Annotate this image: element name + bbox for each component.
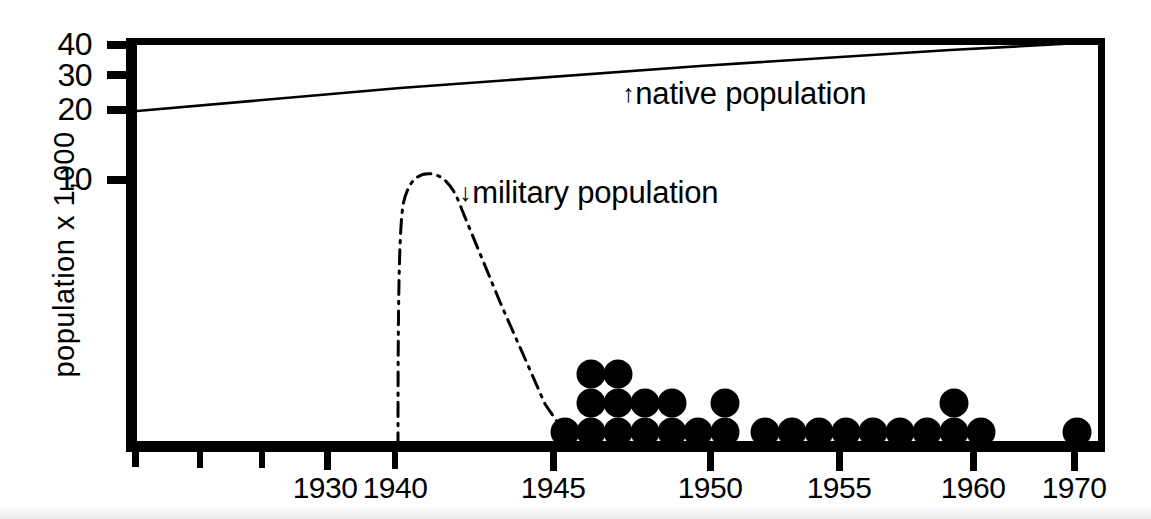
data-dot [551, 418, 580, 447]
data-dot [751, 418, 780, 447]
data-dot [805, 418, 834, 447]
x-tick-label-1955: 1955 [779, 473, 899, 503]
annotation-native-population-label: native population [635, 76, 866, 111]
data-dot [604, 389, 633, 418]
data-dot [658, 389, 687, 418]
x-tick-label-1945: 1945 [493, 473, 613, 503]
data-dot [832, 418, 861, 447]
annotation-military-population-label: military population [472, 175, 718, 210]
arrow-up-icon: ↑ [622, 81, 634, 106]
y-axis-label: population x 1,000 [48, 105, 81, 405]
data-dot [778, 418, 807, 447]
data-dot [1063, 418, 1092, 447]
data-dot [711, 418, 740, 447]
figure-canvas: population x 1,000 40 30 20 10 1930 1940… [0, 0, 1151, 519]
data-dot [886, 418, 915, 447]
data-dot [604, 418, 633, 447]
data-dot [967, 418, 996, 447]
y-tick-label-40: 40 [26, 28, 92, 60]
data-dot [577, 389, 606, 418]
arrow-down-icon: ↓ [459, 180, 471, 205]
series-native-population [137, 42, 1098, 111]
data-dot [940, 389, 969, 418]
chart-svg [0, 0, 1151, 519]
data-dot [940, 418, 969, 447]
y-tick-label-10: 10 [26, 163, 92, 195]
data-dot [631, 389, 660, 418]
y-tick-label-30: 30 [26, 59, 92, 91]
data-dot [658, 418, 687, 447]
data-dot [631, 418, 660, 447]
data-dot [604, 360, 633, 389]
y-axis-ticks [107, 41, 129, 184]
data-dot [913, 418, 942, 447]
data-dot [859, 418, 888, 447]
annotation-military-population: ↓military population [459, 177, 718, 208]
data-dot [711, 389, 740, 418]
x-tick-label-1950: 1950 [650, 473, 770, 503]
y-tick-label-20: 20 [26, 93, 92, 125]
page-edge-shadow [0, 506, 1151, 519]
annotation-native-population: ↑native population [622, 78, 866, 109]
data-dot [577, 360, 606, 389]
series-military-population [398, 174, 578, 452]
dot-stack-layer [551, 360, 1092, 447]
x-tick-label-1940: 1940 [335, 473, 455, 503]
x-tick-label-1970: 1970 [1014, 473, 1134, 503]
data-dot [577, 418, 606, 447]
data-dot [684, 418, 713, 447]
